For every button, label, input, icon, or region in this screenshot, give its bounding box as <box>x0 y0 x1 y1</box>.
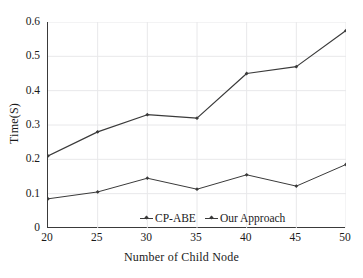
legend-line-marker-icon <box>205 214 218 222</box>
legend-item[interactable]: Our Approach <box>205 212 285 224</box>
legend-label: Our Approach <box>220 212 285 224</box>
data-point-marker <box>145 113 149 117</box>
legend-label: CP-ABE <box>155 212 196 224</box>
x-axis-tick-label: 45 <box>280 231 310 243</box>
x-axis-tick-label: 30 <box>131 231 161 243</box>
y-axis-tick-label: 0.1 <box>8 188 40 200</box>
data-point-marker <box>145 176 149 180</box>
x-axis-tick-label: 25 <box>82 231 112 243</box>
plot-canvas <box>48 22 346 228</box>
y-axis-tick-label: 0.5 <box>8 50 40 62</box>
y-axis-tick-label: 0.6 <box>8 16 40 28</box>
data-point-marker <box>96 130 100 134</box>
gridlines <box>48 22 346 228</box>
plot-area <box>47 22 345 228</box>
data-point-marker <box>48 197 50 201</box>
legend-item[interactable]: CP-ABE <box>140 212 196 224</box>
legend-line-marker-icon <box>140 214 153 222</box>
y-axis-tick-label: 0.2 <box>8 153 40 165</box>
line-chart: 00.10.20.30.40.50.6 20253035404550 CP-AB… <box>0 0 363 278</box>
y-axis-title: Time(S) <box>7 94 22 154</box>
data-point-marker <box>245 173 249 177</box>
x-axis-tick-label: 40 <box>231 231 261 243</box>
x-axis-title: Number of Child Node <box>0 250 363 265</box>
data-point-marker <box>195 187 199 191</box>
chart-legend: CP-ABEOur Approach <box>140 212 285 224</box>
data-point-marker <box>344 163 346 167</box>
x-axis-tick-label: 20 <box>32 231 62 243</box>
data-point-marker <box>294 184 298 188</box>
x-axis-tick-label: 35 <box>181 231 211 243</box>
x-axis-tick-label: 50 <box>330 231 360 243</box>
